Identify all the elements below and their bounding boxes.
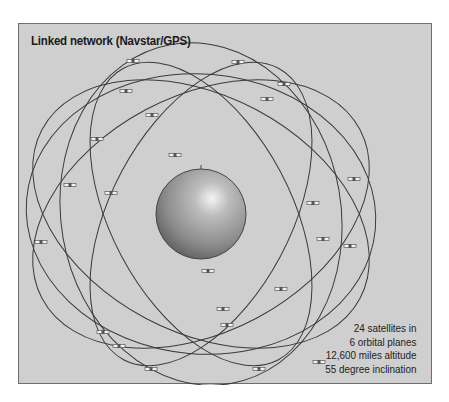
satellite-icon — [146, 113, 158, 117]
caption-line: 24 satellites in — [326, 322, 417, 336]
satellite-icon — [317, 237, 329, 241]
globe — [156, 165, 246, 259]
figure-caption: 24 satellites in 6 orbital planes 12,600… — [326, 322, 417, 376]
satellite-icon — [202, 269, 214, 273]
satellite-icon — [232, 60, 244, 64]
satellite-icon — [313, 360, 325, 364]
satellite-icon — [97, 330, 109, 334]
satellite-icon — [344, 244, 356, 248]
satellite-icon — [105, 191, 117, 195]
satellite-icon — [253, 367, 265, 371]
satellite-icon — [221, 323, 233, 327]
caption-line: 12,600 miles altitude — [326, 349, 417, 363]
satellite-icon — [348, 177, 360, 181]
satellite-icon — [275, 287, 287, 291]
caption-line: 55 degree inclination — [326, 363, 417, 377]
satellite-icon — [261, 97, 273, 101]
satellite-icon — [127, 59, 139, 63]
satellite-icon — [145, 367, 157, 371]
satellite-icon — [35, 240, 47, 244]
satellite-icon — [169, 153, 181, 157]
satellite-icon — [113, 344, 125, 348]
figure-title: Linked network (Navstar/GPS) — [31, 34, 191, 48]
satellite-icon — [64, 183, 76, 187]
satellite-icon — [278, 82, 290, 86]
caption-line: 6 orbital planes — [326, 336, 417, 350]
satellite-icon — [307, 201, 319, 205]
figure-panel: Linked network (Navstar/GPS) 24 satellit… — [18, 23, 432, 384]
satellite-icon — [120, 89, 132, 93]
satellite-icon — [91, 137, 103, 141]
satellite-icon — [217, 307, 229, 311]
